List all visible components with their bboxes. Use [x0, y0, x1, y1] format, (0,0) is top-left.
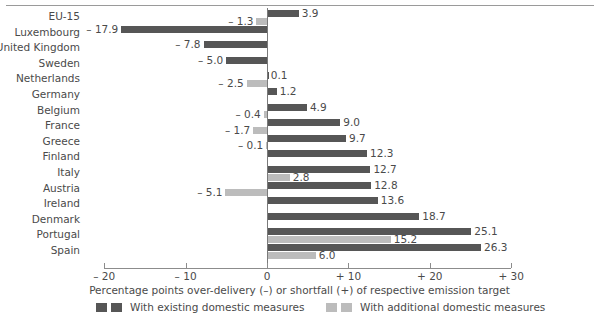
x-tick-label: + 20: [395, 270, 465, 282]
bar-existing[interactable]: [267, 213, 419, 220]
x-axis-line: [104, 268, 511, 269]
bar-existing[interactable]: [267, 166, 370, 173]
bar-existing[interactable]: [267, 244, 481, 251]
bar-value-label: 15.2: [394, 236, 417, 243]
row-bars: 9.7– 0.1: [0, 135, 599, 151]
bar-existing[interactable]: [267, 197, 378, 204]
bar-additional[interactable]: [267, 236, 391, 243]
bar-additional[interactable]: [267, 174, 290, 181]
bar-value-label: – 7.8: [175, 41, 200, 48]
x-tick-label: – 10: [151, 270, 221, 282]
bar-chart-figure: EU-153.9– 1.3Luxembourg– 17.9United King…: [0, 0, 599, 320]
bar-value-label: 12.7: [373, 166, 396, 173]
chart-row: Luxembourg– 17.9: [0, 26, 599, 42]
bar-value-label: 0.1: [271, 72, 288, 79]
bar-existing[interactable]: [121, 26, 267, 33]
bar-value-label: 4.9: [310, 104, 327, 111]
bar-existing[interactable]: [267, 182, 371, 189]
x-tick-mark: [104, 263, 105, 268]
row-bars: 0.1– 2.5: [0, 72, 599, 88]
x-axis-label: Percentage points over-delivery (–) or s…: [0, 284, 599, 296]
bar-value-label: – 1.7: [225, 127, 250, 134]
x-tick-label: + 10: [313, 270, 383, 282]
x-tick-mark: [348, 263, 349, 268]
chart-row: Sweden– 5.0: [0, 57, 599, 73]
bar-value-label: 6.0: [319, 252, 336, 259]
legend-swatch-dark-a: [96, 303, 107, 312]
chart-row: Ireland13.6: [0, 197, 599, 213]
bar-value-label: 9.0: [343, 119, 360, 126]
x-tick-label: + 30: [476, 270, 546, 282]
bar-existing[interactable]: [267, 10, 299, 17]
chart-row: United Kingdom– 7.8: [0, 41, 599, 57]
row-bars: – 5.0: [0, 57, 599, 73]
row-bars: 9.0– 1.7: [0, 119, 599, 135]
row-bars: 18.7: [0, 213, 599, 229]
chart-row: Denmark18.7: [0, 213, 599, 229]
bar-existing[interactable]: [204, 41, 267, 48]
bar-value-label: 26.3: [484, 244, 507, 251]
legend-entry-existing: With existing domestic measures: [96, 300, 304, 314]
chart-row: Greece9.7– 0.1: [0, 135, 599, 151]
legend-entry-additional: With additional domestic measures: [326, 300, 545, 314]
bar-additional[interactable]: [225, 189, 267, 196]
bar-value-label: 9.7: [349, 135, 366, 142]
plot-area: EU-153.9– 1.3Luxembourg– 17.9United King…: [0, 8, 599, 260]
chart-row: France9.0– 1.7: [0, 119, 599, 135]
x-tick-label: – 20: [69, 270, 139, 282]
bar-existing[interactable]: [226, 57, 267, 64]
chart-row: Belgium4.9– 0.4: [0, 104, 599, 120]
bar-additional[interactable]: [247, 80, 267, 87]
bar-value-label: 2.8: [293, 174, 310, 181]
bar-existing[interactable]: [267, 228, 471, 235]
bar-value-label: 13.6: [381, 197, 404, 204]
chart-row: Spain26.36.0: [0, 244, 599, 260]
row-bars: 1.2: [0, 88, 599, 104]
bar-value-label: 12.8: [374, 182, 397, 189]
bar-value-label: – 17.9: [86, 26, 118, 33]
row-bars: 12.3: [0, 150, 599, 166]
bar-value-label: – 0.4: [235, 111, 260, 118]
chart-row: Finland12.3: [0, 150, 599, 166]
chart-row: Austria12.8– 5.1: [0, 182, 599, 198]
chart-row: Portugal25.115.2: [0, 228, 599, 244]
bar-value-label: – 5.0: [198, 57, 223, 64]
row-bars: 13.6: [0, 197, 599, 213]
bar-additional[interactable]: [253, 127, 267, 134]
bar-existing[interactable]: [267, 88, 277, 95]
legend-swatch-dark-b: [111, 303, 122, 312]
x-tick-mark: [186, 263, 187, 268]
bar-existing[interactable]: [267, 119, 340, 126]
legend-swatch-light-a: [326, 303, 337, 312]
chart-row: Germany1.2: [0, 88, 599, 104]
bar-additional[interactable]: [267, 252, 316, 259]
legend-label-additional: With additional domestic measures: [360, 301, 545, 313]
x-tick-mark: [511, 263, 512, 268]
chart-legend: With existing domestic measures With add…: [0, 300, 599, 316]
row-bars: – 7.8: [0, 41, 599, 57]
bar-value-label: – 1.3: [228, 18, 253, 25]
x-tick-mark: [430, 263, 431, 268]
row-bars: 25.115.2: [0, 228, 599, 244]
top-divider: [6, 5, 594, 6]
bar-value-label: 18.7: [422, 213, 445, 220]
row-bars: 12.72.8: [0, 166, 599, 182]
zero-axis-line: [267, 8, 268, 268]
row-bars: 26.36.0: [0, 244, 599, 260]
row-bars: – 17.9: [0, 26, 599, 42]
bar-value-label: 25.1: [474, 228, 497, 235]
bar-value-label: – 2.5: [218, 80, 243, 87]
chart-row: Italy12.72.8: [0, 166, 599, 182]
bar-existing[interactable]: [267, 135, 346, 142]
row-bars: 12.8– 5.1: [0, 182, 599, 198]
legend-swatch-light-b: [341, 303, 352, 312]
bar-value-label: – 0.1: [238, 142, 263, 149]
bar-additional[interactable]: [256, 18, 267, 25]
bar-value-label: 12.3: [370, 150, 393, 157]
bar-existing[interactable]: [267, 150, 367, 157]
bar-value-label: 3.9: [302, 10, 319, 17]
row-bars: 4.9– 0.4: [0, 104, 599, 120]
bar-value-label: 1.2: [280, 88, 297, 95]
bar-value-label: – 5.1: [197, 189, 222, 196]
bar-existing[interactable]: [267, 104, 307, 111]
